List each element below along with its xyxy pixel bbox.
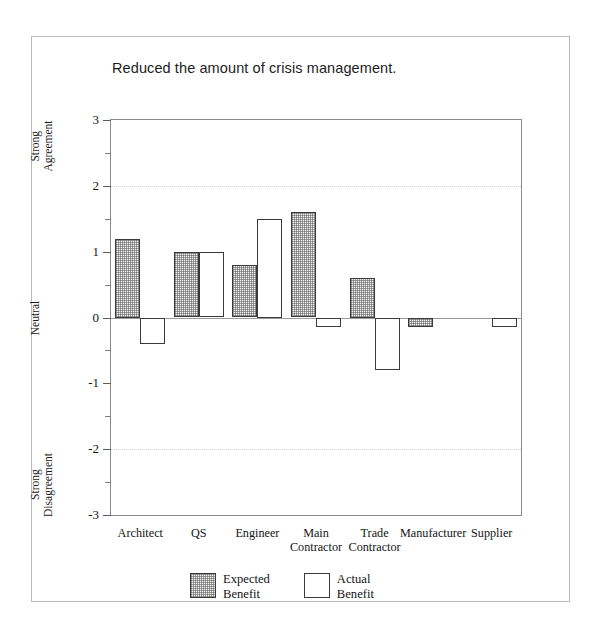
y-axis-tick-label: -2 — [63, 441, 99, 457]
legend-item: ActualBenefit — [304, 572, 374, 602]
bar-expected — [232, 265, 257, 318]
x-axis-tick-label-line: Trade — [349, 526, 401, 540]
y-axis-caption-line: Strong — [29, 121, 42, 172]
legend-label: ActualBenefit — [337, 572, 374, 602]
bar-expected — [115, 239, 140, 318]
plot-area — [110, 119, 522, 516]
y-axis-tick-label: 3 — [63, 112, 99, 128]
bar-expected — [174, 252, 199, 318]
bar-actual — [316, 318, 341, 328]
y-axis-tick-major — [103, 186, 111, 187]
y-axis-tick-minor — [105, 219, 111, 220]
bar-expected — [408, 318, 433, 328]
bar-actual — [140, 318, 165, 344]
chart-legend: ExpectedBenefitActualBenefit — [190, 572, 374, 602]
y-axis-tick-minor — [105, 416, 111, 417]
bar-actual — [375, 318, 400, 371]
y-axis-caption-line: Neutral — [29, 300, 42, 334]
x-axis-tick-label: Architect — [118, 526, 163, 540]
y-axis-tick-minor — [105, 285, 111, 286]
y-axis-tick-major — [103, 449, 111, 450]
x-axis-tick-label-line: Main — [290, 526, 342, 540]
gridline — [111, 186, 521, 187]
legend-swatch-expected — [190, 573, 216, 598]
y-axis-tick-minor — [105, 482, 111, 483]
legend-label-line: Expected — [223, 572, 270, 587]
x-axis-tick-label: QS — [191, 526, 207, 540]
x-axis-tick-label-line: QS — [191, 526, 207, 540]
y-axis-tick-label: -1 — [63, 375, 99, 391]
gridline — [111, 449, 521, 450]
y-axis-tick-label: 1 — [63, 244, 99, 260]
y-axis-caption-line: Disagreement — [42, 453, 55, 517]
chart-title: Reduced the amount of crisis management. — [112, 60, 396, 76]
x-axis-tick-label-line: Contractor — [290, 540, 342, 554]
y-axis-caption-line: Strong — [29, 453, 42, 517]
legend-item: ExpectedBenefit — [190, 572, 270, 602]
y-axis-tick-major — [103, 515, 111, 516]
legend-label: ExpectedBenefit — [223, 572, 270, 602]
y-axis-caption: StrongAgreement — [29, 121, 59, 172]
x-axis-tick-label-line: Manufacturer — [400, 526, 466, 540]
bar-actual — [257, 219, 282, 318]
plot-surface — [111, 120, 521, 515]
y-axis-caption-line: Agreement — [42, 121, 55, 172]
y-axis-tick-label: 2 — [63, 178, 99, 194]
bar-expected — [291, 212, 316, 317]
x-axis-tick-label: Supplier — [471, 526, 512, 540]
bar-actual — [199, 252, 224, 318]
bar-actual — [492, 318, 517, 328]
y-axis-caption: Neutral — [29, 300, 59, 334]
x-axis-tick-label-line: Contractor — [349, 540, 401, 554]
x-axis-tick-label: TradeContractor — [349, 526, 401, 554]
x-axis-tick-label: Engineer — [235, 526, 279, 540]
y-axis-tick-major — [103, 318, 111, 319]
y-axis-tick-major — [103, 120, 111, 121]
y-axis-tick-label: 0 — [63, 310, 99, 326]
y-axis-tick-label: -3 — [63, 507, 99, 523]
bar-expected — [350, 278, 375, 318]
legend-label-line: Benefit — [337, 587, 374, 602]
x-axis-tick-label: Manufacturer — [400, 526, 466, 540]
chart-page: Reduced the amount of crisis management.… — [0, 0, 602, 637]
legend-label-line: Benefit — [223, 587, 270, 602]
x-axis-tick-label-line: Architect — [118, 526, 163, 540]
y-axis-tick-minor — [105, 350, 111, 351]
legend-label-line: Actual — [337, 572, 374, 587]
x-axis-tick-label-line: Supplier — [471, 526, 512, 540]
x-axis-tick-label: MainContractor — [290, 526, 342, 554]
y-axis-caption: StrongDisagreement — [29, 453, 59, 517]
x-axis-tick-label-line: Engineer — [235, 526, 279, 540]
legend-swatch-actual — [304, 573, 330, 598]
y-axis-tick-minor — [105, 153, 111, 154]
y-axis-tick-major — [103, 383, 111, 384]
y-axis-tick-major — [103, 252, 111, 253]
